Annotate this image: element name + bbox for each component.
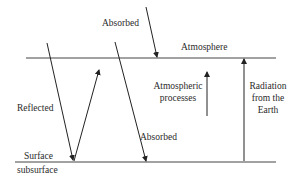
label-atmospheric-processes-line1: Atmospheric xyxy=(150,80,206,92)
label-absorbed-bottom: Absorbed xyxy=(140,131,177,143)
label-reflected: Reflected xyxy=(17,102,53,114)
label-atmospheric-processes: Atmospheric processes xyxy=(150,80,206,104)
label-radiation-line1: Radiation xyxy=(248,80,288,92)
label-subsurface: subsurface xyxy=(17,164,58,176)
label-atmosphere: Atmosphere xyxy=(181,41,227,53)
label-atmospheric-processes-line2: processes xyxy=(150,92,206,104)
absorbed-atmosphere-arrow xyxy=(146,7,157,57)
label-surface: Surface xyxy=(24,150,53,162)
label-absorbed-top: Absorbed xyxy=(102,17,139,29)
label-radiation-line2: from the xyxy=(248,92,288,104)
reflected-radiation-arrow xyxy=(74,70,99,161)
label-radiation-from-earth: Radiation from the Earth xyxy=(248,80,288,116)
absorbed-surface-arrow xyxy=(115,42,146,161)
label-radiation-line3: Earth xyxy=(248,104,288,116)
